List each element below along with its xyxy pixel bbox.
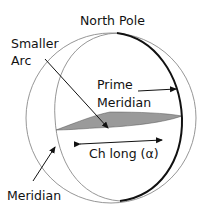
prime-meridian-label-line1: Prime [97, 77, 133, 92]
ch-long-label: Ch long (α) [89, 146, 159, 161]
north-pole-label: North Pole [80, 13, 145, 28]
ch-long-arrow [80, 140, 162, 144]
meridian-label: Meridian [7, 188, 61, 203]
meridian-arrow [33, 147, 55, 181]
globe-diagram: North Pole Smaller Arc Prime Meridian Ch… [0, 0, 203, 212]
prime-meridian-arrow [138, 89, 176, 91]
smaller-arc-label-line1: Smaller [11, 36, 59, 51]
smaller-arc-label-line2: Arc [11, 53, 31, 68]
smaller-arc-arrow [45, 59, 108, 128]
smaller-arc-wedge [56, 112, 182, 130]
prime-meridian-label-line2: Meridian [97, 95, 151, 110]
